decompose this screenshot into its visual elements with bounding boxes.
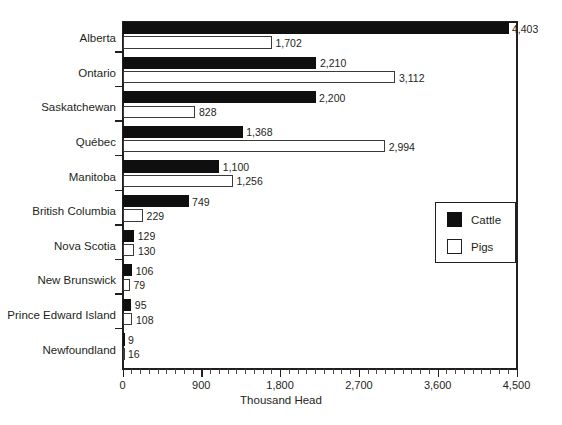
y-axis-tick — [115, 259, 122, 261]
x-axis-tick-minor — [263, 369, 264, 374]
bar-value-cattle: 1,100 — [223, 162, 249, 173]
x-axis-tick-minor — [298, 369, 299, 374]
y-axis-tick — [115, 190, 122, 192]
x-axis-tick-minor — [219, 369, 220, 374]
bar-chart: Alberta4,4031,702Ontario2,2103,112Saskat… — [0, 0, 562, 425]
bar-value-cattle: 2,200 — [319, 93, 345, 104]
bar-value-pigs: 3,112 — [399, 73, 425, 84]
y-axis-label-new-brunswick: New Brunswick — [4, 274, 116, 286]
bar-value-cattle: 106 — [136, 266, 154, 277]
y-axis-tick — [115, 224, 122, 226]
y-axis-label-manitoba: Manitoba — [4, 171, 116, 183]
x-axis-tick-minor — [429, 369, 430, 374]
bar-cattle — [123, 299, 131, 311]
x-axis-tick-minor — [245, 369, 246, 374]
y-axis-label-alberta: Alberta — [4, 32, 116, 44]
x-axis-tick-minor — [140, 369, 141, 374]
x-axis-tick-minor — [473, 369, 474, 374]
x-axis-tick-major — [359, 369, 360, 377]
bar-value-pigs: 229 — [147, 211, 165, 222]
legend-item-pigs: Pigs — [447, 239, 493, 254]
x-axis-tick-label: 0 — [119, 379, 125, 391]
x-axis-tick-minor — [464, 369, 465, 374]
bar-value-pigs: 1,256 — [236, 176, 262, 187]
bar-pigs — [123, 106, 195, 118]
x-axis-tick-minor — [271, 369, 272, 374]
bar-cattle — [123, 22, 509, 34]
bar-value-cattle: 1,368 — [246, 127, 272, 138]
bar-pigs — [123, 71, 395, 83]
bar-pigs — [123, 244, 134, 256]
bar-value-pigs: 79 — [133, 280, 145, 291]
x-axis-tick-label: 1,800 — [266, 379, 294, 391]
bar-pigs — [123, 313, 132, 325]
x-axis-tick-minor — [446, 369, 447, 374]
x-axis-tick-minor — [149, 369, 150, 374]
bar-pigs — [123, 140, 385, 152]
bar-value-cattle: 4,403 — [512, 24, 538, 35]
x-axis-tick-minor — [481, 369, 482, 374]
bar-value-cattle: 95 — [135, 300, 147, 311]
x-axis-tick-major — [280, 369, 281, 377]
x-axis-tick-minor — [306, 369, 307, 374]
x-axis-tick-minor — [175, 369, 176, 374]
x-axis-tick-minor — [455, 369, 456, 374]
x-axis-tick-minor — [228, 369, 229, 374]
bar-pigs — [123, 209, 143, 221]
legend-swatch-cattle-icon — [447, 212, 462, 227]
x-axis-tick-minor — [420, 369, 421, 374]
x-axis-tick-minor — [184, 369, 185, 374]
bar-pigs — [123, 36, 272, 48]
x-axis-tick-minor — [490, 369, 491, 374]
x-axis-tick-minor — [403, 369, 404, 374]
x-axis-tick-major — [517, 369, 518, 377]
x-axis-tick-major — [438, 369, 439, 377]
legend-item-cattle: Cattle — [447, 212, 501, 227]
legend-label-pigs: Pigs — [471, 241, 493, 253]
x-axis-tick-minor — [158, 369, 159, 374]
y-axis-tick — [115, 120, 122, 122]
x-axis-tick-minor — [350, 369, 351, 374]
bar-value-pigs: 16 — [128, 349, 140, 360]
x-axis-tick-minor — [210, 369, 211, 374]
legend-label-cattle: Cattle — [471, 214, 501, 226]
bar-cattle — [123, 195, 189, 207]
x-axis-tick-minor — [385, 369, 386, 374]
x-axis-tick-minor — [193, 369, 194, 374]
x-axis-tick-minor — [236, 369, 237, 374]
x-axis-tick-label: 4,500 — [503, 379, 531, 391]
x-axis-tick-label: 2,700 — [345, 379, 373, 391]
x-axis-tick-major — [123, 369, 124, 377]
y-axis-label-saskatchewan: Saskatchewan — [4, 101, 116, 113]
bar-cattle — [123, 230, 134, 242]
bar-cattle — [123, 126, 243, 138]
x-axis-tick-minor — [499, 369, 500, 374]
y-axis-label-prince-edward-island: Prince Edward Island — [4, 309, 116, 321]
bar-pigs — [123, 175, 233, 187]
x-axis-tick-minor — [254, 369, 255, 374]
y-axis-tick — [115, 86, 122, 88]
y-axis-label-ontario: Ontario — [4, 67, 116, 79]
y-axis-tick — [115, 51, 122, 53]
y-axis-label-nova-scotia: Nova Scotia — [4, 240, 116, 252]
x-axis-tick-major — [201, 369, 202, 377]
x-axis-tick-minor — [341, 369, 342, 374]
bar-cattle — [123, 264, 132, 276]
x-axis-tick-minor — [411, 369, 412, 374]
x-axis-tick-minor — [324, 369, 325, 374]
y-axis-tick — [115, 328, 122, 330]
bar-value-pigs: 2,994 — [389, 142, 415, 153]
bar-cattle — [123, 57, 316, 69]
x-axis-tick-minor — [508, 369, 509, 374]
y-axis-label-qu-bec: Québec — [4, 136, 116, 148]
chart-legend: Cattle Pigs — [435, 202, 516, 263]
x-axis-tick-minor — [315, 369, 316, 374]
bar-value-cattle: 129 — [138, 231, 156, 242]
x-axis-tick-minor — [368, 369, 369, 374]
x-axis-tick-minor — [166, 369, 167, 374]
x-axis-tick-minor — [394, 369, 395, 374]
bar-cattle — [123, 160, 219, 172]
x-axis-tick-label: 900 — [192, 379, 210, 391]
y-axis-tick — [115, 293, 122, 295]
x-axis-line — [122, 368, 518, 370]
